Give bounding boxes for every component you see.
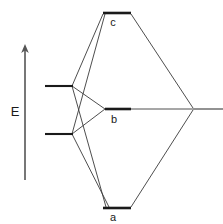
left-levels-group <box>45 86 73 134</box>
energy-axis-group <box>21 44 29 180</box>
correlation-line-left-lower-to-a <box>72 134 109 207</box>
level-c-label: c <box>110 16 116 28</box>
level-a-label: a <box>110 211 117 223</box>
level-b-label: b <box>111 113 117 125</box>
center-levels-group <box>103 13 131 208</box>
correlation-line-left-lower-to-b <box>72 109 105 134</box>
energy-level-diagram: E c b a <box>0 0 223 224</box>
correlation-line-c-to-right-node <box>131 14 193 108</box>
correlation-line-left-upper-to-a <box>72 86 106 207</box>
energy-axis-label: E <box>11 104 20 119</box>
correlation-lines-group <box>72 14 193 207</box>
correlation-line-a-to-right-node <box>131 110 193 207</box>
correlation-line-left-upper-to-c <box>72 14 103 86</box>
diagram-canvas: E c b a <box>0 0 223 224</box>
correlation-line-left-upper-to-b <box>72 86 105 109</box>
